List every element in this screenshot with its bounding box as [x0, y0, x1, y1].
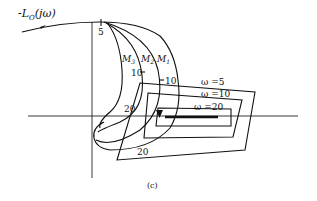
freq-label-5: 5	[98, 27, 104, 37]
box-label-omega-20: ω =20	[194, 102, 223, 112]
freq-label-bottom-20: 20	[137, 147, 149, 157]
box-label-omega-10: ω =10	[201, 89, 230, 99]
box-label-omega-5: ω =5	[201, 77, 225, 87]
freq-label-left-20: 20	[124, 104, 136, 114]
curve-label: -LO(jω)	[18, 7, 56, 22]
m1-label: M1	[156, 54, 170, 65]
freq-label-m3-10: 10	[131, 68, 143, 78]
freq-label-m1-10: 10	[165, 76, 177, 86]
m3-label: M3	[121, 54, 135, 65]
nyquist-diagram: -LO(jω) 5 M3 M2 M1 10 10 20 20 ω =5 ω =1…	[0, 0, 317, 201]
figure-caption: (c)	[147, 181, 158, 190]
m3-contour	[100, 24, 123, 128]
